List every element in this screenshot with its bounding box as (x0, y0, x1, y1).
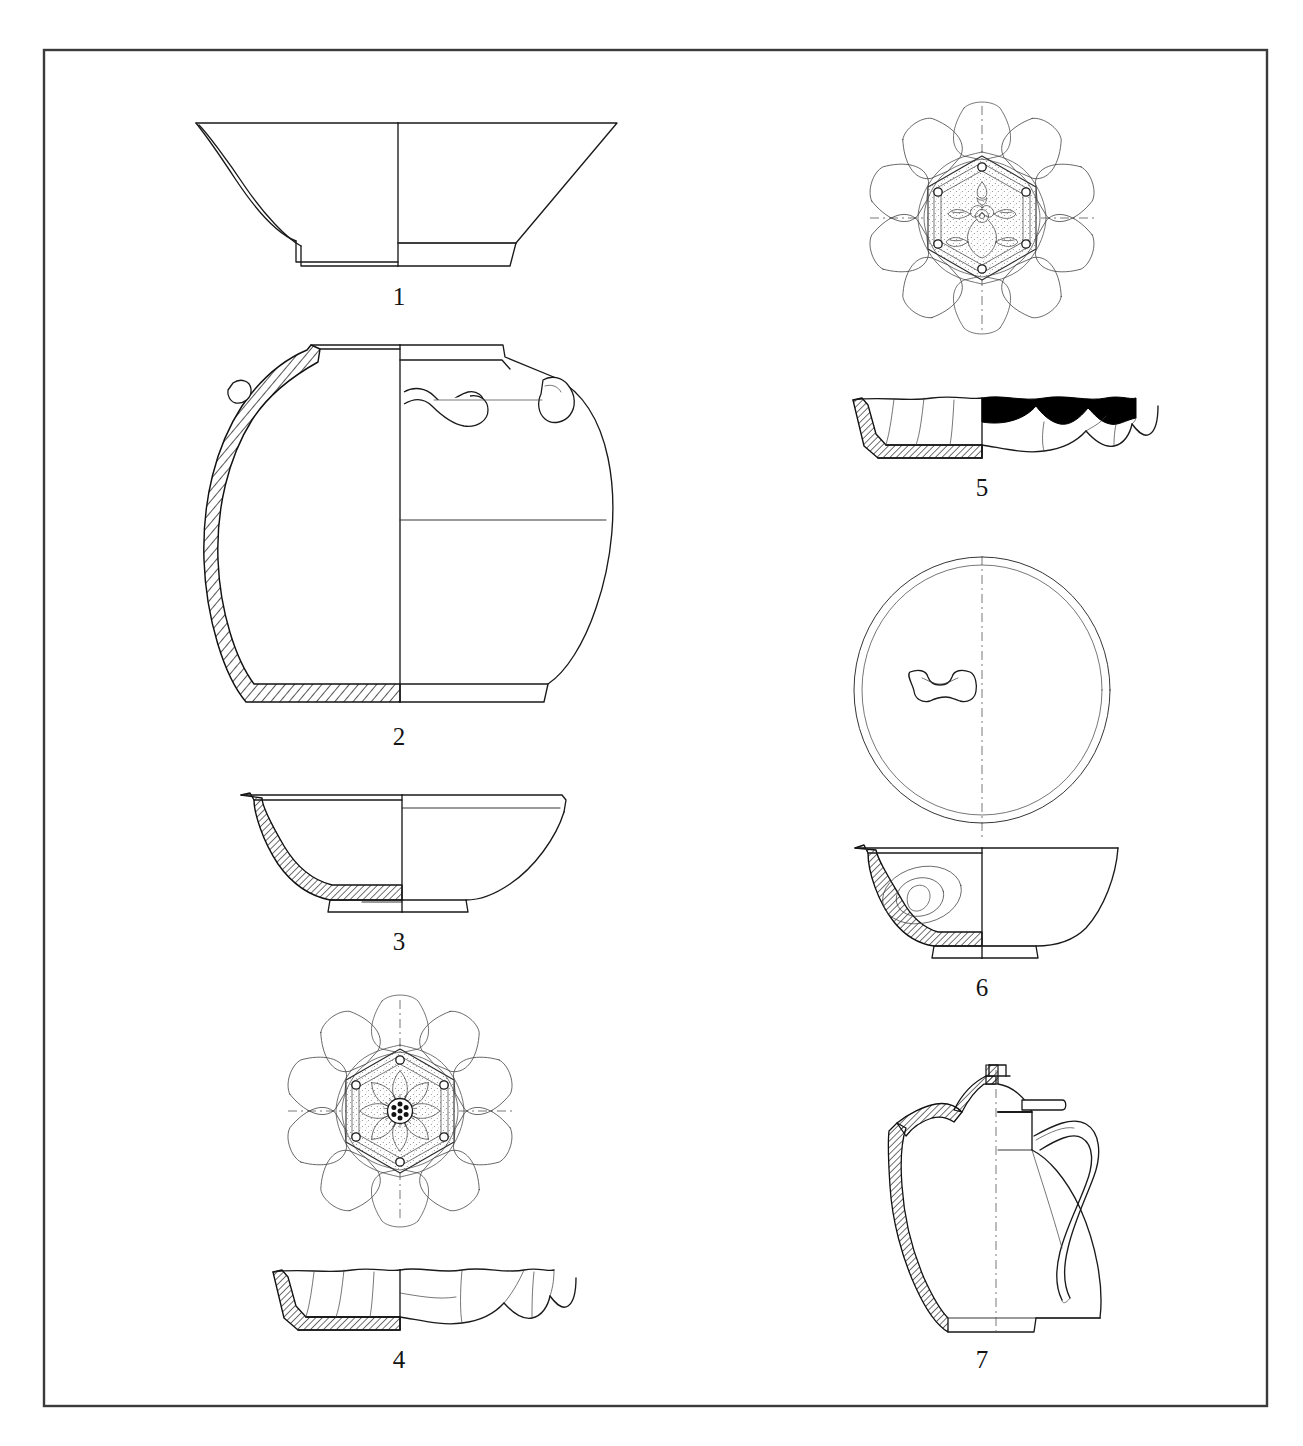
figure-5-plan-view (863, 102, 1101, 334)
figure-2-globular-jar: 2 (204, 345, 613, 750)
figure-5-profile-section (853, 397, 1158, 458)
figure-6-profile-section (855, 845, 1118, 958)
figure-label-7: 7 (976, 1346, 989, 1373)
figure-4-lobed-dish: 4 (273, 995, 576, 1373)
figure-3-shallow-bowl: 3 (241, 793, 566, 955)
figure-label-1: 1 (393, 283, 406, 310)
figure-1-conical-bowl: 1 (196, 123, 617, 310)
figure-4-profile-section (273, 1269, 576, 1330)
figure-5-lobed-dish: 5 (853, 102, 1158, 501)
figure-label-4: 4 (393, 1346, 406, 1373)
figure-7-lidded-ewer: 7 (888, 1065, 1101, 1373)
figure-4-plan-view (281, 995, 519, 1227)
figure-6-plan-view (854, 556, 1110, 840)
figure-label-2: 2 (393, 723, 406, 750)
figure-6-bowl-with-lid: 6 (854, 556, 1118, 1001)
figure-label-5: 5 (976, 474, 989, 501)
illustration-plate: 1 2 3 (0, 0, 1303, 1446)
figure-label-3: 3 (393, 928, 406, 955)
figure-label-6: 6 (976, 974, 989, 1001)
